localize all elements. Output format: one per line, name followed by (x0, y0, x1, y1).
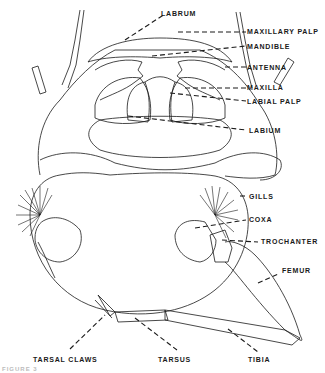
left-coxa (35, 218, 81, 262)
figure-caption: FIGURE 3 (2, 366, 38, 372)
leader-tibia (228, 329, 258, 352)
label-labrum: LABRUM (161, 10, 196, 18)
left-antenna (32, 66, 46, 94)
head-capsule-outline (38, 50, 277, 178)
anatomy-drawing (0, 0, 325, 373)
left-gills (16, 186, 52, 236)
leader-femur (258, 274, 278, 283)
right-gills (200, 186, 238, 238)
tibia-shape (165, 310, 300, 345)
label-antenna: ANTENNA (247, 64, 287, 72)
label-maxillary-palp: MAXILLARY PALP (247, 28, 319, 36)
leader-mandible (152, 46, 246, 56)
trochanter-shape (210, 230, 232, 262)
tarsus-shape (115, 310, 168, 322)
label-labium: LABIUM (249, 127, 281, 135)
neck-outline (40, 153, 281, 180)
label-femur: FEMUR (282, 267, 311, 275)
label-coxa: COXA (249, 216, 272, 224)
femur-shape (225, 242, 302, 341)
leader-labrum (125, 14, 165, 40)
label-mandible: MANDIBLE (247, 43, 290, 51)
leader-labium (128, 116, 246, 130)
left-maxillary-palp (62, 10, 80, 85)
right-coxa (175, 221, 216, 262)
label-trochanter: TROCHANTER (261, 238, 318, 246)
label-tibia: TIBIA (248, 356, 270, 364)
label-tarsal-claws: TARSAL CLAWS (33, 356, 98, 364)
anatomy-diagram: LABRUM MAXILLARY PALP MANDIBLE ANTENNA M… (0, 0, 325, 373)
label-maxilla: MAXILLA (247, 84, 284, 92)
leader-tarsal-claws (70, 315, 105, 349)
leader-tarsus (135, 318, 177, 350)
label-tarsus: TARSUS (158, 356, 191, 364)
label-gills: GILLS (249, 193, 274, 201)
label-labial-palp: LABIAL PALP (247, 98, 301, 106)
